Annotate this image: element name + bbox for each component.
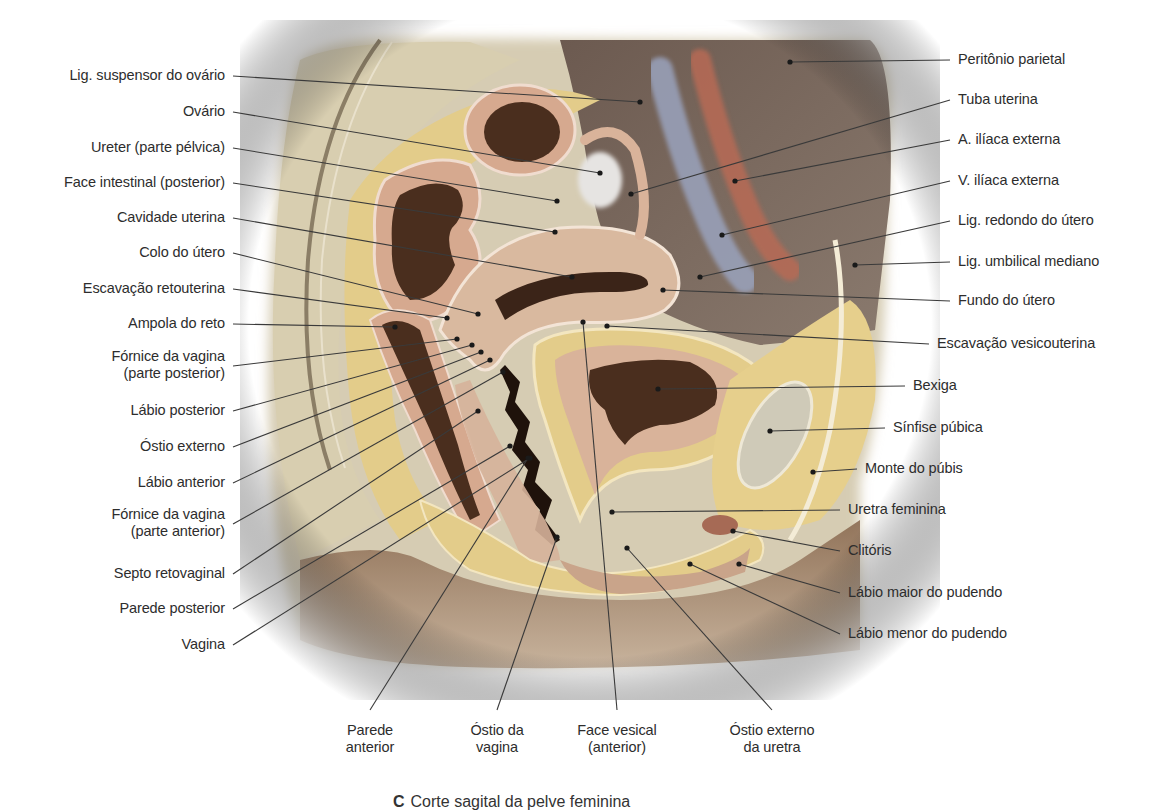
- label-lig-suspensor-ovario: Lig. suspensor do ovário: [69, 67, 225, 84]
- label-colo-utero: Colo do útero: [139, 244, 225, 261]
- label-ampola-reto: Ampola do reto: [128, 315, 225, 332]
- label-escavacao-retouterina: Escavação retouterina: [83, 280, 225, 297]
- label-vagina: Vagina: [182, 636, 225, 653]
- label-ureter: Ureter (parte pélvica): [91, 139, 225, 156]
- label-tuba-uterina: Tuba uterina: [958, 91, 1038, 108]
- label-labio-menor: Lábio menor do pudendo: [848, 625, 1007, 642]
- label-cavidade-uterina: Cavidade uterina: [117, 209, 225, 226]
- label-ovario: Ovário: [183, 103, 225, 120]
- figure-stage: Lig. suspensor do ovárioOvárioUreter (pa…: [0, 0, 1175, 812]
- label-lig-umbilical: Lig. umbilical mediano: [958, 253, 1099, 270]
- label-sinfise-pubica: Sínfise púbica: [893, 419, 983, 436]
- label-ostio-externo: Óstio externo: [140, 438, 225, 455]
- label-v-iliaca-externa: V. ilíaca externa: [958, 172, 1059, 189]
- label-bexiga: Bexiga: [913, 377, 957, 394]
- label-ostio-externo-uretra: Óstio externoda uretra: [712, 722, 832, 756]
- label-labio-maior: Lábio maior do pudendo: [848, 584, 1002, 601]
- label-septo-retovaginal: Septo retovaginal: [114, 565, 225, 582]
- label-face-vesical: Face vesical(anterior): [557, 722, 677, 756]
- caption-text: Corte sagital da pelve feminina: [411, 793, 631, 810]
- label-peritonio-parietal: Peritônio parietal: [958, 51, 1065, 68]
- label-lig-redondo: Lig. redondo do útero: [958, 212, 1094, 229]
- label-uretra-feminina: Uretra feminina: [848, 501, 946, 518]
- label-clitoris: Clitóris: [848, 542, 892, 559]
- illustration-body: [240, 20, 940, 700]
- label-labio-posterior: Lábio posterior: [131, 402, 225, 419]
- figure-caption: CCorte sagital da pelve feminina: [393, 793, 630, 811]
- label-parede-anterior: Paredeanterior: [310, 722, 430, 756]
- label-ostio-vagina: Óstio davagina: [437, 722, 557, 756]
- caption-letter: C: [393, 793, 405, 810]
- label-face-intestinal: Face intestinal (posterior): [64, 174, 225, 191]
- label-parede-posterior: Parede posterior: [119, 600, 225, 617]
- label-fundo-utero: Fundo do útero: [958, 292, 1055, 309]
- label-a-iliaca-externa: A. ilíaca externa: [958, 131, 1060, 148]
- label-escavacao-vesicouterina: Escavação vesicouterina: [937, 335, 1095, 352]
- label-fornice-anterior: Fórnice da vagina(parte anterior): [111, 506, 225, 540]
- label-labio-anterior: Lábio anterior: [138, 474, 225, 491]
- label-fornice-posterior: Fórnice da vagina(parte posterior): [111, 348, 225, 382]
- label-monte-pubis: Monte do púbis: [865, 460, 963, 477]
